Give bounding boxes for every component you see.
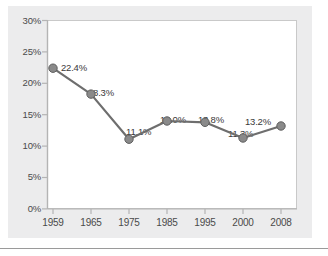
data-point-2008 xyxy=(277,122,285,130)
data-point-1975 xyxy=(125,135,133,143)
data-point-1965 xyxy=(87,90,95,98)
data-line xyxy=(53,68,281,139)
data-point-2000 xyxy=(239,134,247,142)
chart-figure: 30% 25% 20% 15% 10% 5% 0% 1959 1965 1975… xyxy=(0,0,328,256)
footer-divider xyxy=(0,248,328,249)
data-point-1985 xyxy=(163,117,171,125)
data-point-1959 xyxy=(49,64,57,72)
data-point-1995 xyxy=(201,118,209,126)
line-chart-svg xyxy=(0,0,328,256)
